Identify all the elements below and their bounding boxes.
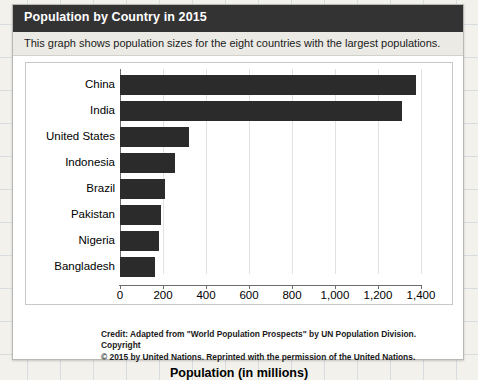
card-header: Population by Country in 2015 [13,5,463,32]
bar-row: Brazil [26,179,452,199]
credit-note: Credit: Adapted from "World Population P… [101,329,449,363]
bar-row: United States [26,127,452,147]
bar [120,101,402,121]
x-tick-label: 600 [239,289,258,301]
x-tick-label: 400 [196,289,215,301]
bar [120,153,175,173]
x-tick-label: 1,400 [407,289,436,301]
bar-series: ChinaIndiaUnited StatesIndonesiaBrazilPa… [26,63,452,304]
credit-label: Credit: [101,329,128,339]
x-tick-label: 200 [153,289,172,301]
x-tick-label: 800 [282,289,301,301]
x-tick-label: 0 [117,289,123,301]
bar-category-label: United States [46,130,115,142]
bar [120,231,159,251]
bar-row: Indonesia [26,153,452,173]
subtitle-strip: This graph shows population sizes for th… [13,32,463,56]
bar [120,179,165,199]
bar [120,127,189,147]
bar [120,205,161,225]
bar-category-label: Indonesia [65,156,115,168]
x-axis-title: Population (in millions) [26,366,452,380]
bar-category-label: Brazil [86,182,115,194]
bar-category-label: China [85,78,115,90]
bar-category-label: Bangladesh [54,260,115,272]
bar [120,75,416,95]
bar-row: India [26,101,452,121]
bar-row: China [26,75,452,95]
bar-row: Pakistan [26,205,452,225]
bar-category-label: Pakistan [71,208,115,220]
credit-line-1: Adapted from "World Population Prospects… [101,329,416,350]
bar-category-label: Nigeria [79,234,115,246]
page-title: Population by Country in 2015 [24,10,207,24]
x-axis-line [119,285,421,286]
bar [120,257,155,277]
credit-line-2: © 2015 by United Nations. Reprinted with… [101,352,415,362]
bar-row: Bangladesh [26,257,452,277]
bar-category-label: India [90,104,115,116]
x-tick-label: 1,200 [364,289,393,301]
subtitle-text: This graph shows population sizes for th… [24,37,440,49]
bar-row: Nigeria [26,231,452,251]
chart-card: Population by Country in 2015 This graph… [12,4,464,360]
x-tick-label: 1,000 [321,289,350,301]
chart-plot-area: ChinaIndiaUnited StatesIndonesiaBrazilPa… [25,62,453,305]
